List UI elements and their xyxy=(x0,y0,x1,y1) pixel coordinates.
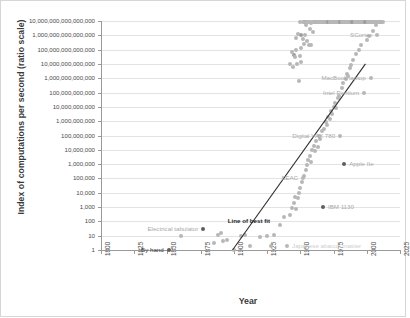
point-annotation-label: By hand xyxy=(141,246,169,253)
plot-area: 10,000,000,000,000,0001,000,000,000,000,… xyxy=(101,21,400,250)
x-tick-mark xyxy=(400,250,401,254)
x-axis-title: Year xyxy=(95,296,401,306)
y-tick-label: 1,000,000,000,000 xyxy=(0,75,95,81)
y-tick-label: 100,000,000 xyxy=(0,133,95,139)
y-tick-label: 100,000,000,000,000 xyxy=(0,47,95,53)
y-tick-label: 10,000 xyxy=(0,190,95,196)
y-tick-label: 1,000,000 xyxy=(0,161,95,167)
y-tick-label: 100,000 xyxy=(0,175,95,181)
y-tick-label: 100 xyxy=(0,218,95,224)
y-tick-label: 10,000,000,000 xyxy=(0,104,95,110)
y-tick-label: 10 xyxy=(0,233,95,239)
point-annotation-label: Line of best fit xyxy=(228,217,275,224)
y-tick-label: 1,000 xyxy=(0,204,95,210)
x-tick-label: 2025 xyxy=(403,242,410,256)
y-tick-label: 100,000,000,000 xyxy=(0,90,95,96)
y-tick-label: 10,000,000 xyxy=(0,147,95,153)
y-tick-label: 10,000,000,000,000 xyxy=(0,61,95,67)
y-tick-label: 1,000,000,000,000,000 xyxy=(0,32,95,38)
point-annotation-label: Intel Pentium xyxy=(323,89,364,96)
point-annotation-label: SEAC xyxy=(281,174,303,181)
point-annotation-label: Apple IIe xyxy=(344,160,373,167)
point-annotation-label: Japanese abacus master xyxy=(287,242,361,249)
point-annotation-label: Electrical tabulator xyxy=(147,225,203,232)
point-annotation-label: SCortex xyxy=(350,31,377,38)
point-annotation-label: MacBook laptop xyxy=(321,74,370,81)
y-tick-label: 10,000,000,000,000,000 xyxy=(0,18,95,24)
y-tick-label: 1 xyxy=(0,247,95,253)
y-tick-label: 1,000,000,000 xyxy=(0,118,95,124)
point-annotation-label: Digital VAX 780 xyxy=(292,132,340,139)
point-annotation-label: IBM 1130 xyxy=(323,203,354,210)
